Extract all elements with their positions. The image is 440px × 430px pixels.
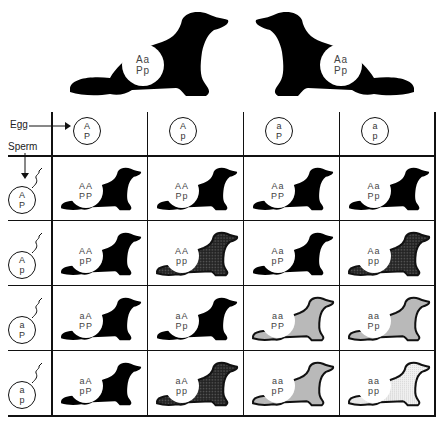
genotype-line2: Pp [136,65,150,76]
genotype-line1: aa [368,311,380,321]
genotype-line1: aa [272,376,284,386]
egg-label: Egg [10,119,28,130]
genotype-line2: PP [271,191,285,201]
genotype-line2: PP [271,321,285,331]
genotype-line1: Aa [271,181,284,191]
allele-p: P [19,200,25,210]
offspring-cell: AAPp [149,157,241,219]
genotype-line1: AA [79,181,93,191]
offspring-genotype: aapP [261,369,295,403]
offspring-genotype: aApP [69,369,103,403]
allele-p: P [276,131,282,141]
genotype-line2: pP [271,386,284,396]
egg-gamete: Ap [169,117,197,145]
allele-a: a [19,385,24,395]
offspring-cell: aAPp [149,287,241,349]
genotype-line2: Pp [175,191,188,201]
grid-line [8,285,436,286]
genotype-line2: PP [79,191,93,201]
genotype-line1: Aa [136,54,150,65]
genotype-line2: pp [368,386,380,396]
offspring-genotype: aaPP [261,304,295,338]
offspring-genotype: AAPp [165,174,199,208]
offspring-cell: AAPP [53,157,145,219]
parent-left: Aa Pp [62,8,232,100]
grid-line [147,112,148,417]
allele-a: A [84,121,90,131]
offspring-cell: AapP [245,222,337,284]
allele-a: A [19,255,25,265]
parent-right-genotype: Aa Pp [320,44,362,86]
sperm-tail-icon [30,363,46,385]
sperm-gamete: aP [8,316,36,344]
genotype-line1: aA [175,311,188,321]
offspring-genotype: aApp [165,369,199,403]
parent-right: Aa Pp [252,8,422,100]
offspring-cell: Aapp [341,222,433,284]
sperm-tail-icon [30,233,46,255]
sperm-gamete: Ap [8,251,36,279]
allele-a: A [180,121,186,131]
offspring-genotype: Aapp [357,239,391,273]
sperm-gamete: AP [8,186,36,214]
offspring-genotype: aAPp [165,304,199,338]
sperm-label: Sperm [8,141,37,152]
sperm-tail-icon [30,298,46,320]
sperm-gamete: ap [8,381,36,409]
genotype-line2: PP [79,321,93,331]
offspring-genotype: AaPP [261,174,295,208]
genotype-line1: aa [272,311,284,321]
genotype-line2: Pp [175,321,188,331]
allele-p: p [180,131,185,141]
offspring-genotype: AApP [69,239,103,273]
genotype-line2: pP [79,386,92,396]
offspring-cell: aapP [245,352,337,414]
offspring-cell: AaPP [245,157,337,219]
genotype-line1: Aa [367,246,380,256]
allele-a: a [276,121,281,131]
egg-arrow-icon [29,121,71,131]
allele-p: P [84,131,90,141]
offspring-genotype: AApp [165,239,199,273]
allele-p: P [19,330,25,340]
genotype-line1: aA [79,311,92,321]
genotype-line2: Pp [334,65,348,76]
genotype-line2: pp [176,256,188,266]
offspring-cell: aAPP [53,287,145,349]
allele-p: p [19,395,24,405]
offspring-cell: aaPp [341,287,433,349]
allele-a: a [372,121,377,131]
genotype-line1: aA [79,376,92,386]
grid-line [8,220,436,221]
offspring-genotype: AapP [261,239,295,273]
genotype-line1: Aa [334,54,348,65]
offspring-genotype: aaPp [357,304,391,338]
genotype-line1: AA [175,181,189,191]
sperm-tail-icon [30,168,46,190]
genotype-line2: Pp [367,321,380,331]
genotype-line1: Aa [367,181,380,191]
allele-p: p [19,265,24,275]
sperm-arrow-icon [21,153,29,179]
genotype-line1: aA [175,376,188,386]
genotype-line1: Aa [271,246,284,256]
genotype-line2: pp [368,256,380,266]
offspring-genotype: AaPp [357,174,391,208]
genotype-line2: pP [271,256,284,266]
grid-line [434,112,436,417]
genotype-line1: aa [368,376,380,386]
offspring-genotype: aAPP [69,304,103,338]
grid-line [339,112,340,417]
offspring-cell: AApP [53,222,145,284]
genotype-line1: AA [79,246,93,256]
genotype-line2: pp [176,386,188,396]
allele-p: p [372,131,377,141]
grid-line [8,350,436,351]
offspring-cell: aApP [53,352,145,414]
genotype-line2: Pp [367,191,380,201]
offspring-cell: aApp [149,352,241,414]
offspring-cell: AApp [149,222,241,284]
genotype-line2: pP [79,256,92,266]
allele-a: A [19,190,25,200]
offspring-genotype: AAPP [69,174,103,208]
